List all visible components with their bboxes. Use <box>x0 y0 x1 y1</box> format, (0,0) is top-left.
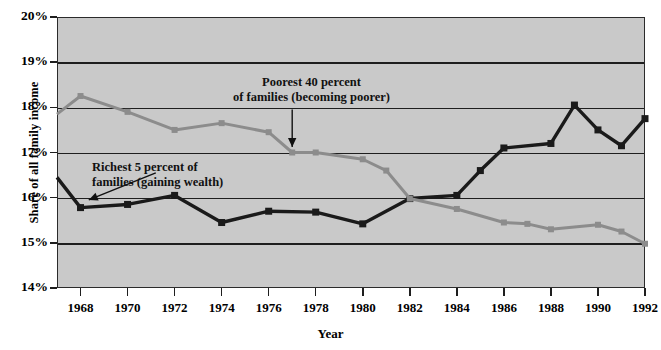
series-marker <box>171 192 178 199</box>
chart-root: Share of all family income 14%15%16%17%1… <box>0 0 661 350</box>
series-marker <box>219 120 225 126</box>
annotation-poorest-40: Poorest 40 percent of families (becoming… <box>233 75 390 105</box>
series-marker <box>360 156 366 162</box>
annotation-richest-line1: Richest 5 percent of <box>92 160 223 175</box>
annotation-arrow-head <box>288 138 296 147</box>
series-marker <box>454 206 460 212</box>
series-marker <box>265 208 272 215</box>
series-marker <box>289 150 295 156</box>
annotation-richest-line2: families (gaining wealth) <box>92 175 223 190</box>
series-marker <box>172 127 178 133</box>
series-marker <box>125 109 131 115</box>
series-marker <box>383 168 389 174</box>
series-marker <box>266 129 272 135</box>
series-marker <box>500 144 507 151</box>
annotation-richest-5: Richest 5 percent of families (gaining w… <box>92 160 223 190</box>
series-marker <box>218 219 225 226</box>
series-marker <box>407 196 413 202</box>
series-marker <box>124 201 131 208</box>
series-marker <box>548 226 554 232</box>
annotation-poorest-line1: Poorest 40 percent <box>233 75 390 90</box>
series-marker <box>77 204 84 211</box>
series-marker <box>547 140 554 147</box>
series-marker <box>571 102 578 109</box>
series-marker <box>501 220 507 226</box>
series-marker <box>618 229 624 235</box>
series-marker <box>78 93 84 99</box>
series-marker <box>524 221 530 227</box>
series-marker <box>453 192 460 199</box>
series-marker <box>642 115 649 122</box>
series-marker <box>313 150 319 156</box>
series-marker <box>312 209 319 216</box>
series-marker <box>595 222 601 228</box>
series-marker <box>359 220 366 227</box>
series-marker <box>477 167 484 174</box>
series-marker <box>618 142 625 149</box>
series-marker <box>642 241 648 247</box>
series-marker <box>594 126 601 133</box>
annotation-poorest-line2: of families (becoming poorer) <box>233 90 390 105</box>
